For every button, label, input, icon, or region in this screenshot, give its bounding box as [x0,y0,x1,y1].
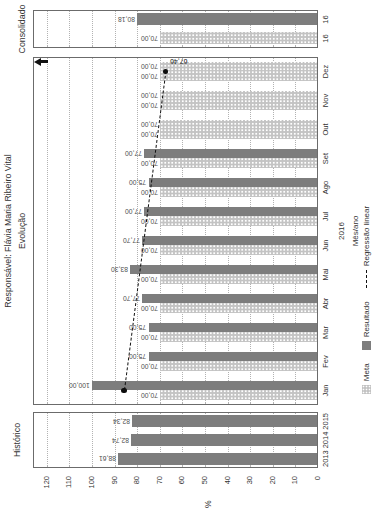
bar-value-label: 83,30 [111,265,128,274]
category-label-month: Set [321,145,330,173]
bar-value-label: 70,00 [141,159,158,168]
x-axis-label-year: 2016 [337,57,346,405]
value-axis-tick-label: 100 [87,476,96,500]
bar-value-label: 70,00 [141,101,158,110]
value-axis-unit-label: % [203,500,213,508]
bar-value-label: 70,00 [141,362,158,371]
dashed-line-swatch-icon [366,270,367,288]
category-label-month: Jun [321,232,330,260]
value-axis-tick-label: 0 [313,476,322,500]
panel-frame-historico [33,412,318,468]
bar-value-label: 77,00 [125,207,142,216]
bar-value-label: 70,00 [141,391,158,400]
bar-value-label: 70,00 [141,275,158,284]
bar-value-label: 70,00 [141,72,158,81]
value-axis-tick-label: 10 [290,476,299,500]
legend-item-meta: Meta [362,363,371,394]
legend-item-regressao: Regressão linear [362,206,371,288]
category-label-year: 2015 [321,407,330,435]
bar-value-label: 100,00 [69,381,90,390]
trend-start-dot [121,388,127,394]
x-axis-label-mes-ano: Mês/ano [351,57,360,405]
bar-value-label: 75,00 [129,323,146,332]
category-label-consolidado: 16 [321,6,330,34]
legend-label-regressao: Regressão linear [362,206,371,266]
bar-value-label: 70,00 [141,304,158,313]
bar-value-label: 70,00 [141,91,158,100]
category-label-month: Jul [321,203,330,231]
legend-label-meta: Meta [362,363,371,381]
bar-value-label: 70,00 [141,217,158,226]
category-label-month: Mar [321,319,330,347]
bar-value-label: 70,00 [141,34,158,43]
resultado-swatch-icon [362,341,371,350]
bar-value-label: 77,00 [125,149,142,158]
panel-title-evolucao: Evolução [17,57,27,405]
responsible-title: Responsável: Flávia Maria Ribeiro Vital [3,57,13,405]
bar-value-label: 75,00 [129,178,146,187]
bar-value-label: 75,00 [129,352,146,361]
category-label-month: Dez [321,58,330,86]
category-label-month: Fev [321,348,330,376]
panel-frame-evolucao [33,57,318,405]
panel-title-historico: Histórico [12,382,22,498]
chart-landscape: Responsável: Flávia Maria Ribeiro Vital … [0,0,382,510]
value-axis-tick-label: 80 [132,476,141,500]
bar-value-label: 77,70 [123,294,140,303]
legend-label-resultado: Resultado [362,301,371,337]
category-label-month: Mai [321,261,330,289]
bar-value-label: 70,00 [141,62,158,71]
bar-value-label: 70,00 [141,120,158,129]
trend-direction-arrow-icon [34,58,41,66]
value-axis-tick-label: 20 [268,476,277,500]
category-label-month: Abr [321,290,330,318]
panel-title-consolidado: Consolidado [17,0,27,74]
value-axis-tick-label: 70 [155,476,164,500]
trend-end-value-label: 67,46 [170,59,188,66]
value-axis-tick-label: 60 [177,476,186,500]
legend-item-resultado: Resultado [362,301,371,350]
value-axis-tick-label: 50 [200,476,209,500]
panel-frame-consolidado [33,10,318,48]
bar-value-label: 70,00 [141,246,158,255]
bar-value-label: 80,18 [118,15,135,24]
value-axis-tick-label: 40 [223,476,232,500]
bar-value-label: 88,61 [99,454,116,463]
category-label-month: Jan [321,377,330,405]
category-label-month: Out [321,116,330,144]
value-axis-tick-label: 110 [64,476,73,500]
trend-direction-arrow-icon [41,60,48,63]
category-label-month: Ago [321,174,330,202]
category-label-month: Nov [321,87,330,115]
bar-value-label: 77,70 [123,236,140,245]
value-axis-tick-label: 90 [110,476,119,500]
bar-value-label: 82,34 [113,417,130,426]
rotated-report-page: Responsável: Flávia Maria Ribeiro Vital … [0,0,382,510]
bar-value-label: 70,00 [141,333,158,342]
bar-value-label: 70,00 [141,188,158,197]
value-axis-tick-label: 30 [245,476,254,500]
bar-value-label: 70,00 [141,130,158,139]
legend: Meta Resultado Regressão linear [362,120,371,480]
value-axis-tick-label: 120 [42,476,51,500]
bar-value-label: 82,74 [112,436,129,445]
meta-swatch-icon [362,385,371,394]
